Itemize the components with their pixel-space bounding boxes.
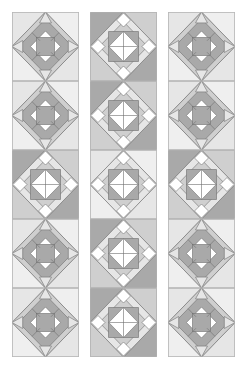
ring-pattern-icon [12, 81, 79, 150]
star-pattern-icon [12, 150, 79, 219]
quilt-block-ring [12, 288, 79, 357]
ring-pattern-icon [168, 219, 235, 288]
quilt-block-ring [12, 219, 79, 288]
star-pattern-icon [90, 288, 157, 357]
quilt-block-ring [168, 81, 235, 150]
ring-pattern-icon [168, 288, 235, 357]
ring-pattern-icon [12, 12, 79, 81]
quilt-column-2 [90, 12, 157, 357]
star-pattern-icon [90, 12, 157, 81]
ring-pattern-icon [168, 12, 235, 81]
quilt-block-star [90, 12, 157, 81]
quilt-block-star [90, 219, 157, 288]
star-pattern-icon [90, 219, 157, 288]
ring-pattern-icon [12, 288, 79, 357]
quilt-column-3 [168, 12, 235, 357]
quilt-block-star [90, 150, 157, 219]
quilt-block-star [90, 288, 157, 357]
star-pattern-icon [168, 150, 235, 219]
ring-pattern-icon [168, 81, 235, 150]
quilt-block-ring [12, 81, 79, 150]
quilt-block-ring [168, 219, 235, 288]
star-pattern-icon [90, 150, 157, 219]
quilt-block-ring [168, 288, 235, 357]
quilt-block-ring [168, 12, 235, 81]
star-pattern-icon [90, 81, 157, 150]
ring-pattern-icon [12, 219, 79, 288]
quilt-block-star [90, 81, 157, 150]
quilt-column-1 [12, 12, 79, 357]
quilt-block-ring [12, 12, 79, 81]
quilt-block-star [12, 150, 79, 219]
quilt-block-star [168, 150, 235, 219]
